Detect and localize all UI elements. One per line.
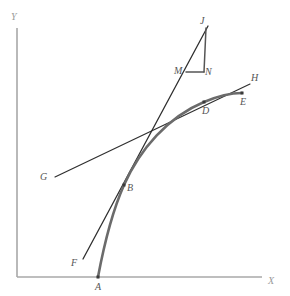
point-dot-e	[241, 92, 244, 95]
point-label-f: F	[71, 258, 77, 268]
point-label-b: B	[127, 183, 133, 193]
y-axis-label: Y	[11, 12, 17, 22]
point-label-j: J	[200, 16, 204, 26]
point-dots-group	[97, 92, 244, 279]
chord-line-fj	[83, 26, 208, 259]
geometry-figure: Y X A B D E F G H J M N	[0, 0, 290, 296]
point-label-a: A	[95, 282, 101, 292]
point-label-e: E	[240, 97, 246, 107]
x-axis-label: X	[268, 276, 274, 286]
point-dot-d	[203, 101, 206, 104]
point-label-d: D	[202, 106, 209, 116]
point-label-g: G	[40, 172, 47, 182]
diagram-canvas	[0, 0, 290, 296]
point-dot-b	[123, 184, 126, 187]
curve-ae	[98, 93, 242, 277]
point-label-n: N	[205, 67, 212, 77]
point-label-h: H	[251, 73, 258, 83]
point-label-m: M	[174, 66, 182, 76]
point-dot-a	[97, 276, 100, 279]
